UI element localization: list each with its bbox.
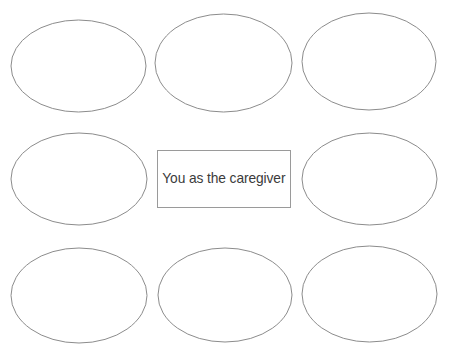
node-middle-right[interactable] (302, 133, 437, 225)
node-top-left[interactable] (11, 20, 146, 112)
node-top-right[interactable] (302, 13, 436, 110)
node-top-center[interactable] (155, 14, 292, 112)
node-bottom-center[interactable] (158, 248, 292, 342)
node-bottom-left[interactable] (11, 248, 147, 343)
center-node-label: You as the caregiver (162, 171, 285, 187)
diagram-canvas: You as the caregiver (0, 0, 450, 358)
center-node-box[interactable]: You as the caregiver (157, 150, 291, 208)
node-bottom-right[interactable] (302, 246, 437, 342)
node-middle-left[interactable] (11, 133, 147, 225)
